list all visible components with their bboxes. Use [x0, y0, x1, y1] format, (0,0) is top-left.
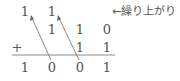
result-digit: 1	[101, 61, 113, 75]
carry-digit: 1	[19, 5, 31, 19]
plus-operator: +	[11, 41, 23, 55]
operand-1-digit: 0	[101, 23, 113, 37]
carry-label: ←繰り上がり	[112, 5, 176, 19]
result-digit: 0	[46, 61, 58, 75]
carry-digit: 1	[46, 5, 58, 19]
operand-1-digit: 1	[74, 23, 86, 37]
operand-2-digit: 1	[101, 41, 113, 55]
result-digit: 1	[19, 61, 31, 75]
result-digit: 0	[74, 61, 86, 75]
operand-1-digit: 1	[46, 23, 58, 37]
operand-2-digit: 1	[74, 41, 86, 55]
